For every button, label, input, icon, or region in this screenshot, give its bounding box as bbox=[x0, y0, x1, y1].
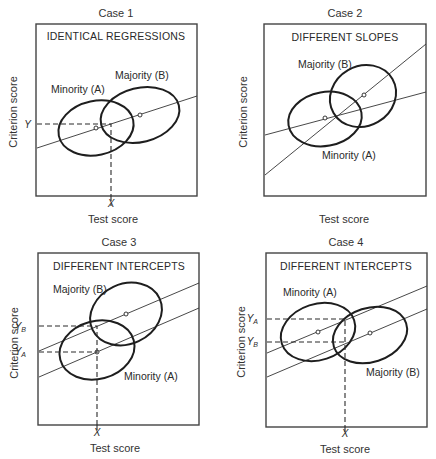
plot-frame bbox=[38, 253, 199, 425]
x-tick-label: X bbox=[93, 427, 101, 438]
x-axis-label: Test score bbox=[88, 213, 138, 225]
case-title: Case 2 bbox=[328, 7, 363, 19]
majority-prediction-dashed-line bbox=[39, 326, 97, 425]
y-axis-label: Criterion score bbox=[8, 307, 20, 379]
panel-case-1: Case 1 IDENTICAL REGRESSIONS Minority (A… bbox=[7, 7, 197, 225]
panel-case-2: Case 2 DIFFERENT SLOPES Majority (B) Min… bbox=[237, 7, 426, 225]
y-tick-label-b: YB bbox=[247, 336, 259, 348]
plot-frame bbox=[36, 24, 197, 196]
minority-mean-point bbox=[323, 116, 327, 120]
y-axis-label: Criterion score bbox=[235, 306, 247, 378]
majority-mean-point bbox=[138, 113, 142, 117]
regression-cases-figure: Case 1 IDENTICAL REGRESSIONS Minority (A… bbox=[0, 0, 436, 459]
minority-mean-point bbox=[94, 126, 98, 130]
y-tick-label: Y bbox=[24, 119, 32, 130]
case-title: Case 1 bbox=[99, 7, 134, 19]
group-label-majority: Majority (B) bbox=[366, 366, 420, 378]
majority-mean-point bbox=[362, 93, 366, 97]
box-title: DIFFERENT SLOPES bbox=[292, 31, 399, 43]
box-title: DIFFERENT INTERCEPTS bbox=[280, 260, 412, 272]
minority-mean-point bbox=[316, 330, 320, 334]
group-label-majority: Majority (B) bbox=[298, 58, 352, 70]
x-axis-label: Test score bbox=[90, 442, 140, 454]
y-tick-label-a: YA bbox=[247, 313, 259, 325]
plot-frame bbox=[266, 253, 427, 427]
panel-case-4: Case 4 DIFFERENT INTERCEPTS Minority (A)… bbox=[235, 236, 427, 455]
group-label-minority: Minority (A) bbox=[51, 83, 105, 95]
prediction-dashed-lines bbox=[37, 124, 111, 196]
box-title: IDENTICAL REGRESSIONS bbox=[47, 30, 186, 42]
group-label-majority: Majority (B) bbox=[115, 69, 169, 81]
y-axis-label: Criterion score bbox=[237, 76, 249, 148]
x-axis-label: Test score bbox=[319, 213, 369, 225]
x-tick-label: X bbox=[341, 428, 349, 439]
majority-mean-point bbox=[124, 312, 128, 316]
group-label-minority: Minority (A) bbox=[283, 286, 337, 298]
x-axis-label: Test score bbox=[320, 443, 370, 455]
y-axis-label: Criterion score bbox=[7, 76, 19, 148]
group-label-majority: Majority (B) bbox=[53, 283, 107, 295]
panel-case-3: Case 3 DIFFERENT INTERCEPTS Majority (B)… bbox=[8, 236, 199, 454]
group-label-minority: Minority (A) bbox=[322, 149, 376, 161]
group-label-minority: Minority (A) bbox=[124, 370, 178, 382]
case-title: Case 4 bbox=[329, 236, 364, 248]
x-tick-label: X bbox=[107, 198, 115, 209]
majority-mean-point bbox=[368, 331, 372, 335]
case-title: Case 3 bbox=[102, 236, 137, 248]
box-title: DIFFERENT INTERCEPTS bbox=[53, 260, 185, 272]
